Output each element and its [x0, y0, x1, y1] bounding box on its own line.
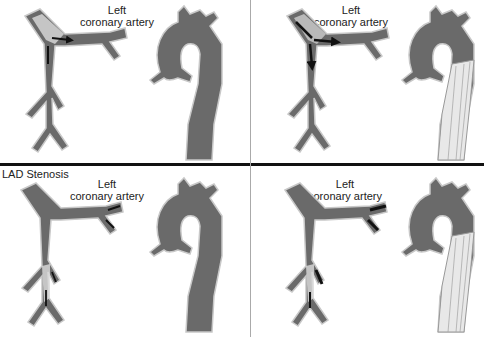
aorta-catheter-top-right [400, 4, 484, 164]
aorta-bottom-left [148, 176, 238, 336]
coronary-artery-bottom-right [280, 180, 410, 337]
coronary-artery-top-left [20, 6, 150, 166]
coronary-artery-top-right [282, 6, 412, 166]
aorta-top-left [148, 4, 238, 164]
aorta-catheter-bottom-right [400, 176, 484, 336]
coronary-artery-bottom-left [16, 180, 146, 337]
vertical-divider [250, 0, 251, 337]
